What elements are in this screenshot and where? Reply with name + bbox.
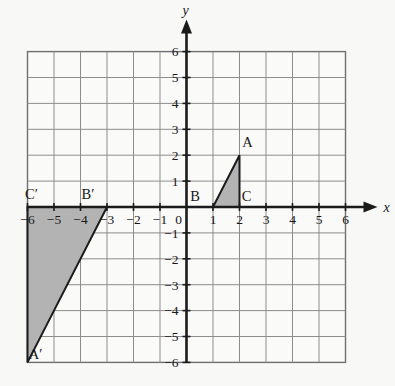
x-axis-name: x	[382, 200, 390, 215]
y-axis-name: y	[180, 3, 189, 18]
vertex-label: B	[190, 188, 200, 204]
x-axis-tick-label: 2	[236, 212, 243, 227]
vertex-label: C′	[25, 186, 38, 202]
x-axis-tick-label: 5	[316, 212, 323, 227]
x-axis-tick-label: −5	[47, 212, 62, 227]
x-axis-tick-label: 6	[342, 212, 349, 227]
y-axis-arrow-icon	[181, 20, 192, 34]
y-axis-tick-label: −4	[164, 303, 179, 318]
y-axis-tick-label: 5	[172, 70, 179, 85]
y-axis-tick-label: 1	[172, 174, 179, 189]
x-axis-arrow-icon	[364, 202, 378, 213]
x-axis-tick-label: 1	[210, 212, 217, 227]
y-axis-tick-label: −1	[164, 226, 178, 241]
vertex-label: A	[242, 134, 253, 150]
figure-container: −6−5−4−3−2−1123456654321−1−2−3−4−5−60 xy…	[0, 0, 395, 386]
x-axis-tick-label: 4	[289, 212, 296, 227]
y-axis-tick-label: 4	[172, 96, 179, 111]
x-axis-tick-label: −4	[73, 212, 88, 227]
y-axis-tick-label: −6	[164, 355, 179, 370]
vertex-label: C	[242, 188, 252, 204]
y-axis-tick-label: −2	[164, 252, 178, 267]
y-axis-tick-label: 6	[172, 44, 179, 59]
x-axis-tick-label: −2	[126, 212, 140, 227]
y-axis-tick-label: 3	[172, 122, 179, 137]
x-axis-tick-label: −3	[100, 212, 115, 227]
y-axis-tick-label: −5	[164, 329, 179, 344]
origin-tick-label: 0	[175, 212, 182, 227]
coordinate-plane-chart: −6−5−4−3−2−1123456654321−1−2−3−4−5−60 xy…	[0, 0, 395, 386]
x-axis-tick-label: −6	[20, 212, 35, 227]
vertex-label: B′	[82, 186, 95, 202]
vertex-label: A′	[29, 346, 43, 362]
x-axis-tick-label: 3	[263, 212, 270, 227]
y-axis-tick-label: −3	[164, 278, 179, 293]
y-axis-tick-label: 2	[172, 148, 179, 163]
